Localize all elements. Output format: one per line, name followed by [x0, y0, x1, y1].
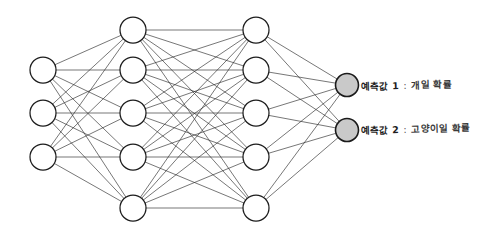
connection-edges-group [50, 30, 340, 208]
edge-hidden2-0-to-output-1 [265, 40, 340, 122]
output-label-1-name: 예측값 1 [361, 80, 399, 92]
output-label-2-separator: : [402, 124, 408, 135]
node-input-1 [30, 57, 56, 83]
node-hidden1-2 [120, 57, 146, 83]
node-hidden2-5 [243, 195, 269, 221]
edge-hidden2-0-to-output-0 [267, 37, 337, 79]
edge-input-2-to-hidden1-4 [54, 163, 121, 201]
edge-input-1-to-hidden1-4 [52, 122, 124, 198]
edge-input-1-to-hidden1-0 [53, 39, 124, 104]
node-hidden2-4 [243, 144, 269, 170]
node-hidden2-2 [243, 57, 269, 83]
edge-hidden2-4-to-output-1 [266, 137, 338, 199]
node-hidden2-3 [243, 100, 269, 126]
node-hidden2-1 [243, 17, 269, 43]
output-label-2-description: 고양이일 확률 [411, 122, 470, 135]
node-input-3 [30, 144, 56, 170]
neural-network-diagram: 예측값 1 : 개일 확률 예측값 2 : 고양이일 확률 [0, 0, 483, 238]
output-label-2-name: 예측값 2 [361, 124, 399, 136]
output-label-prediction-1: 예측값 1 : 개일 확률 [361, 77, 452, 93]
node-input-2 [30, 100, 56, 126]
output-label-1-separator: : [402, 80, 408, 91]
node-hidden1-3 [120, 100, 146, 126]
edge-input-2-to-hidden1-0 [51, 41, 126, 147]
edge-hidden2-1-to-output-0 [269, 72, 336, 83]
edge-hidden2-2-to-output-1 [269, 115, 336, 128]
edge-hidden2-3-to-output-1 [268, 133, 336, 153]
node-output-2 [336, 119, 359, 142]
network-graph-canvas [0, 0, 483, 238]
node-output-1 [336, 74, 359, 97]
node-hidden1-5 [120, 195, 146, 221]
output-label-prediction-2: 예측값 2 : 고양이일 확률 [361, 120, 470, 137]
output-label-1-description: 개일 확률 [411, 79, 452, 91]
edge-hidden2-2-to-output-0 [268, 88, 336, 109]
node-hidden1-1 [120, 17, 146, 43]
node-hidden1-4 [120, 144, 146, 170]
